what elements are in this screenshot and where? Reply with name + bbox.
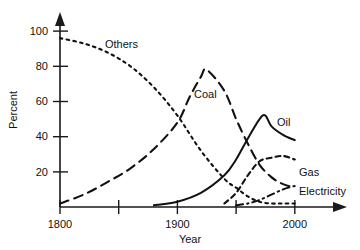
y-tick-label: 60	[36, 95, 48, 107]
series-label-others: Others	[105, 38, 139, 50]
chart-canvas: 100 80 60 40 20 1800 1900 2000 Year Perc…	[0, 0, 360, 250]
x-tick-label: 2000	[283, 218, 307, 230]
series-label-gas: Gas	[299, 166, 320, 178]
series-label-coal: Coal	[194, 88, 217, 100]
y-axis-title: Percent	[7, 91, 19, 129]
x-tick-label: 1900	[165, 218, 189, 230]
y-axis-tick-labels: 100 80 60 40 20	[30, 25, 48, 178]
x-tick-label: 1800	[48, 218, 72, 230]
y-tick-label: 80	[36, 60, 48, 72]
energy-share-chart: 100 80 60 40 20 1800 1900 2000 Year Perc…	[0, 0, 360, 250]
y-axis-arrow-icon	[55, 12, 65, 26]
series-label-oil: Oil	[277, 116, 290, 128]
series-line-oil	[154, 115, 295, 205]
series-line-coal	[60, 69, 295, 203]
x-axis	[60, 202, 347, 212]
series-label-electricity: Electricity	[299, 185, 347, 197]
y-axis	[55, 12, 65, 207]
y-tick-label: 100	[30, 25, 48, 37]
y-tick-label: 20	[36, 166, 48, 178]
x-axis-tick-labels: 1800 1900 2000	[48, 218, 307, 230]
y-tick-label: 40	[36, 130, 48, 142]
series-line-others	[60, 38, 295, 203]
x-axis-title: Year	[179, 233, 202, 245]
series-curves	[60, 38, 295, 205]
x-axis-arrow-icon	[333, 202, 347, 212]
